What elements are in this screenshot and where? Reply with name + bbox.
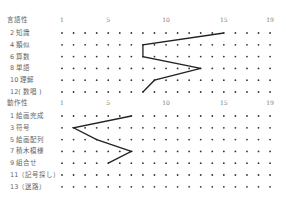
grid-dot <box>188 56 190 58</box>
grid-dot <box>177 186 179 188</box>
grid-dot <box>269 79 271 81</box>
grid-dot <box>223 174 225 176</box>
grid-dot <box>73 79 75 81</box>
grid-dot <box>165 32 167 34</box>
grid-dot <box>73 115 75 117</box>
grid-dot <box>142 139 144 141</box>
grid-dot <box>73 151 75 153</box>
grid-dot <box>235 56 237 58</box>
grid-dot <box>84 186 86 188</box>
grid-dot <box>258 79 260 81</box>
grid-dot <box>177 139 179 141</box>
grid-dot <box>246 127 248 129</box>
grid-dot <box>165 91 167 93</box>
grid-dot <box>73 56 75 58</box>
grid-dot <box>130 91 132 93</box>
grid-dot <box>119 162 121 164</box>
grid-dot <box>188 32 190 34</box>
grid-dot <box>130 186 132 188</box>
grid-dot <box>154 32 156 34</box>
grid-dot <box>235 162 237 164</box>
grid-dot <box>246 139 248 141</box>
grid-dot <box>130 174 132 176</box>
grid-dot <box>235 44 237 46</box>
grid-dot <box>130 32 132 34</box>
grid-dot <box>211 186 213 188</box>
grid-dot <box>119 44 121 46</box>
grid-dot <box>269 127 271 129</box>
grid-dot <box>142 68 144 70</box>
grid-dot <box>269 91 271 93</box>
grid-dot <box>96 44 98 46</box>
grid-dot <box>200 151 202 153</box>
grid-dot <box>130 79 132 81</box>
grid-dot <box>165 174 167 176</box>
grid-dot <box>177 32 179 34</box>
grid-dot <box>119 79 121 81</box>
grid-dot <box>165 186 167 188</box>
grid-dot <box>269 32 271 34</box>
grid-dot <box>211 44 213 46</box>
grid-dot <box>235 91 237 93</box>
grid-dot <box>84 91 86 93</box>
grid-dot <box>211 162 213 164</box>
grid-dot <box>211 139 213 141</box>
grid-dot <box>246 174 248 176</box>
grid-dot <box>142 186 144 188</box>
grid-dot <box>96 174 98 176</box>
grid-dot <box>188 174 190 176</box>
grid-dot <box>200 44 202 46</box>
grid-dot <box>177 127 179 129</box>
grid-dot <box>177 68 179 70</box>
profile-line <box>74 116 132 163</box>
grid-dot <box>223 79 225 81</box>
grid-dot <box>119 127 121 129</box>
grid-dot <box>246 79 248 81</box>
grid-dot <box>130 162 132 164</box>
grid-dot <box>188 162 190 164</box>
grid-dot <box>211 91 213 93</box>
grid-dot <box>223 91 225 93</box>
grid-dot <box>223 44 225 46</box>
grid-dot <box>235 68 237 70</box>
grid-dot <box>177 56 179 58</box>
grid-dot <box>258 56 260 58</box>
grid-dot <box>61 44 63 46</box>
grid-dot <box>211 32 213 34</box>
grid-dot <box>246 91 248 93</box>
grid-dot <box>84 56 86 58</box>
grid-dot <box>165 127 167 129</box>
grid-dot <box>200 139 202 141</box>
grid-dot <box>223 139 225 141</box>
grid-dot <box>61 139 63 141</box>
grid-dot <box>84 151 86 153</box>
grid-dot <box>211 151 213 153</box>
grid-dot <box>119 115 121 117</box>
grid-dot <box>73 44 75 46</box>
grid-dot <box>130 127 132 129</box>
grid-dot <box>177 162 179 164</box>
grid-dot <box>200 79 202 81</box>
grid-dot <box>269 186 271 188</box>
grid-dot <box>130 56 132 58</box>
grid-dot <box>154 91 156 93</box>
grid-dot <box>73 91 75 93</box>
grid-dot <box>119 68 121 70</box>
grid-dot <box>107 91 109 93</box>
grid-dot <box>119 32 121 34</box>
grid-dot <box>61 115 63 117</box>
grid-dot <box>107 44 109 46</box>
grid-dot <box>119 139 121 141</box>
grid-dot <box>73 139 75 141</box>
profile-chart <box>0 0 286 200</box>
grid-dot <box>107 68 109 70</box>
grid-dot <box>119 151 121 153</box>
grid-dot <box>223 151 225 153</box>
grid-dot <box>96 151 98 153</box>
grid-dot <box>96 79 98 81</box>
grid-dot <box>200 186 202 188</box>
grid-dot <box>269 115 271 117</box>
grid-dot <box>154 174 156 176</box>
grid-dot <box>107 174 109 176</box>
grid-dot <box>211 79 213 81</box>
